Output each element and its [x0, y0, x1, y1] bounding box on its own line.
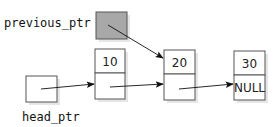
previous-ptr-box	[96, 12, 127, 39]
linked-list-diagram: previous_ptr head_ptr 10 20 30 NULL	[0, 0, 277, 127]
node-value: 30	[242, 57, 257, 71]
node-next-cell	[164, 74, 195, 100]
node-30: 30 NULL	[234, 51, 268, 103]
node-value: 10	[102, 55, 117, 69]
null-label: NULL	[234, 81, 265, 95]
head-ptr-label: head_ptr	[22, 110, 80, 124]
node-value: 20	[172, 56, 187, 70]
node-10: 10	[95, 49, 128, 102]
previous-ptr-label: previous_ptr	[4, 16, 91, 30]
node-20: 20	[164, 50, 198, 103]
